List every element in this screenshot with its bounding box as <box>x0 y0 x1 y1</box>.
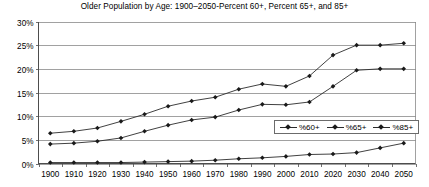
data-point-marker <box>48 131 53 136</box>
x-axis-tick-label: 1940 <box>135 170 154 179</box>
chart-legend: %60+ %65+ %85+ <box>274 120 419 134</box>
data-point-marker <box>213 115 218 120</box>
chart-container: Older Population by Age: 1900–2050-Perce… <box>0 0 429 187</box>
data-point-marker <box>284 154 289 159</box>
x-axis-tick-label: 2010 <box>300 170 319 179</box>
data-point-marker <box>142 112 147 117</box>
legend-label: %65+ <box>346 123 367 132</box>
data-point-marker <box>166 104 171 109</box>
data-point-marker <box>236 87 241 92</box>
x-axis-tick-label: 1910 <box>65 170 84 179</box>
x-axis-tick-label: 2020 <box>324 170 343 179</box>
data-point-marker <box>95 126 100 131</box>
x-axis-tick-label: 1920 <box>88 170 107 179</box>
data-point-marker <box>213 95 218 100</box>
data-point-marker <box>189 99 194 104</box>
data-point-marker <box>142 129 147 134</box>
data-point-marker <box>236 156 241 161</box>
data-point-marker <box>189 159 194 164</box>
legend-item-85plus: %85+ <box>373 123 413 132</box>
data-point-marker <box>284 103 289 108</box>
data-point-marker <box>213 158 218 163</box>
y-axis-tick-label: 15% <box>17 90 33 99</box>
legend-marker-icon <box>373 124 390 131</box>
chart-plot-area: 0%5%10%15%20%25%30% 19001910192019301940… <box>0 0 429 187</box>
data-point-marker <box>166 123 171 128</box>
legend-item-65plus: %65+ <box>327 123 367 132</box>
data-point-marker <box>401 41 406 46</box>
x-axis-labels: 1900191019201930194019501960197019801990… <box>41 170 413 179</box>
legend-label: %60+ <box>299 123 320 132</box>
x-axis-tick-label: 2040 <box>371 170 390 179</box>
y-axis-tick-label: 10% <box>17 113 33 122</box>
data-point-marker <box>378 67 383 72</box>
data-point-marker <box>354 150 359 155</box>
x-axis-tick-label: 1980 <box>230 170 249 179</box>
data-point-marker <box>236 108 241 113</box>
x-axis-tick-label: 1950 <box>159 170 178 179</box>
data-point-marker <box>260 156 265 161</box>
y-axis-tick-label: 30% <box>17 19 33 28</box>
data-point-marker <box>331 152 336 157</box>
data-point-marker <box>72 141 77 146</box>
data-point-marker <box>378 146 383 151</box>
x-axis-tick-label: 1900 <box>41 170 60 179</box>
y-axis-tick-label: 5% <box>22 137 34 146</box>
plot-frame <box>39 22 416 164</box>
x-axis-tick-label: 1960 <box>183 170 202 179</box>
data-point-marker <box>401 141 406 146</box>
y-axis-tick-label: 0% <box>22 161 34 170</box>
x-axis-tick-label: 2050 <box>395 170 414 179</box>
data-point-marker <box>284 84 289 89</box>
data-point-marker <box>95 139 100 144</box>
x-axis-tick-label: 1970 <box>206 170 225 179</box>
data-point-marker <box>260 82 265 87</box>
data-point-marker <box>189 118 194 123</box>
y-axis-tick-label: 25% <box>17 42 33 51</box>
legend-label: %85+ <box>392 123 413 132</box>
data-point-marker <box>260 102 265 107</box>
data-point-marker <box>401 67 406 72</box>
x-axis-tick-label: 1990 <box>253 170 272 179</box>
series-line-85plus <box>50 143 403 162</box>
legend-marker-icon <box>327 124 344 131</box>
data-point-marker <box>119 136 124 141</box>
legend-item-60plus: %60+ <box>280 123 320 132</box>
x-axis-tick-label: 1930 <box>112 170 131 179</box>
data-point-marker <box>378 43 383 48</box>
data-point-marker <box>72 129 77 134</box>
y-axis-labels: 0%5%10%15%20%25%30% <box>17 19 33 170</box>
data-point-marker <box>307 152 312 157</box>
x-axis-tick-label: 2000 <box>277 170 296 179</box>
data-point-marker <box>48 142 53 147</box>
x-axis-tick-label: 2030 <box>347 170 366 179</box>
legend-marker-icon <box>280 124 297 131</box>
data-point-marker <box>307 100 312 105</box>
data-series <box>48 41 406 165</box>
y-axis-tick-label: 20% <box>17 66 33 75</box>
data-point-marker <box>119 119 124 124</box>
data-point-marker <box>354 43 359 48</box>
